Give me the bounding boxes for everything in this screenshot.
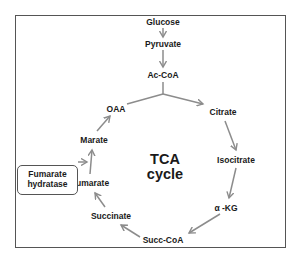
enzyme-fumarate-hydratase: Fumarate hydratase — [17, 165, 78, 195]
node-alpha-kg: α -KG — [214, 204, 237, 213]
enzyme-label-line2: hydratase — [27, 180, 67, 190]
node-succ-coa: Succ-CoA — [143, 236, 184, 245]
node-glucose: Glucose — [146, 18, 180, 27]
arrow-succinate-to-fumarate — [95, 193, 105, 207]
node-succinate: Succinate — [91, 212, 131, 221]
node-isocitrate: Isocitrate — [217, 156, 255, 165]
arrow-fumarate-to-marate — [90, 150, 92, 174]
arrow-to-citrate — [163, 94, 203, 104]
arrow-isocitrate-to-akg — [229, 168, 236, 198]
node-pyruvate: Pyruvate — [145, 40, 181, 49]
node-acetyl-coa: Ac-CoA — [147, 71, 178, 80]
oaa-merge-line — [127, 94, 163, 104]
node-oaa: OAA — [107, 105, 126, 114]
center-label-line1: TCA — [147, 152, 183, 167]
center-label-line2: cycle — [147, 167, 183, 182]
node-marate: Marate — [80, 136, 107, 145]
arrow-succcoa-to-succinate — [121, 225, 140, 237]
arrow-citrate-to-isocitrate — [225, 121, 236, 150]
node-citrate: Citrate — [210, 108, 237, 117]
arrow-marate-to-oaa — [97, 116, 110, 131]
arrow-akg-to-succcoa — [189, 214, 220, 233]
tca-cycle-label: TCA cycle — [147, 152, 183, 182]
